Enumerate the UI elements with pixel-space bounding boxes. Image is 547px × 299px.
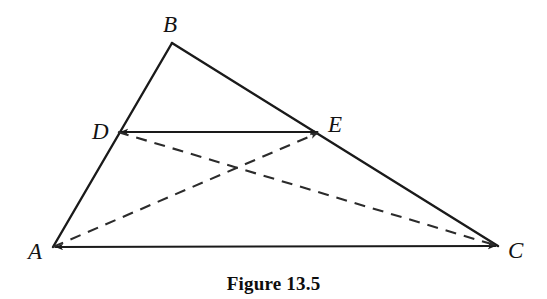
segment-ac bbox=[56, 246, 496, 247]
segment-ab bbox=[53, 43, 172, 247]
segment-bc bbox=[172, 43, 498, 246]
geometry-diagram bbox=[0, 0, 547, 299]
segment-ae-dashed bbox=[53, 133, 318, 247]
vertex-label-e: E bbox=[328, 113, 342, 136]
vertex-label-c: C bbox=[508, 239, 523, 262]
vertex-label-b: B bbox=[163, 13, 177, 36]
vertex-label-d: D bbox=[92, 120, 109, 143]
figure-container: B D E A C Figure 13.5 bbox=[0, 0, 547, 299]
figure-caption: Figure 13.5 bbox=[0, 273, 547, 295]
vertex-label-a: A bbox=[28, 240, 42, 263]
segment-dc-dashed bbox=[118, 132, 496, 245]
